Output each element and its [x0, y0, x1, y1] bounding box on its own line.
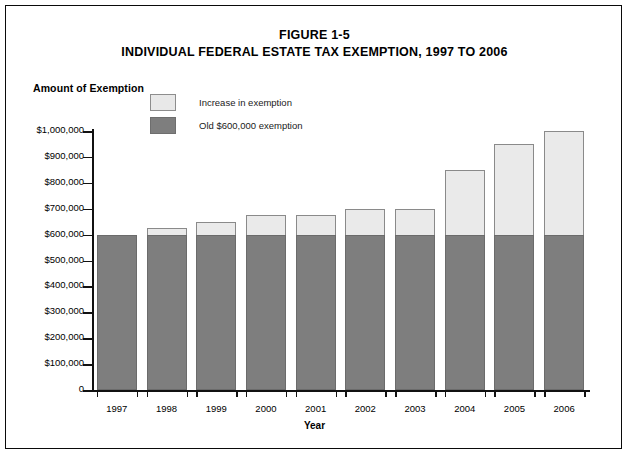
x-axis-tick-label-2006: 2006: [534, 403, 594, 414]
x-axis-tick: [97, 390, 99, 397]
y-axis-tick-label: $200,000: [0, 331, 84, 342]
bar-1997: [97, 235, 137, 390]
y-axis-tick: [83, 312, 92, 314]
x-axis-tick: [385, 390, 387, 397]
y-axis-tick-label: $700,000: [0, 202, 84, 213]
y-axis-tick-label: $300,000: [0, 305, 84, 316]
x-axis-tick: [196, 390, 198, 397]
x-axis-tick: [246, 390, 248, 397]
bar-segment-old-exemption: [395, 235, 435, 390]
bar-segment-old-exemption: [246, 235, 286, 390]
y-axis-tick-label: $600,000: [0, 228, 84, 239]
x-axis-tick: [534, 390, 536, 397]
y-axis-tick: [83, 390, 92, 392]
y-axis-tick-label: 0: [0, 383, 84, 394]
x-axis-tick: [485, 390, 487, 397]
plot-area: 1997199819992000200120022003200420052006: [92, 131, 589, 390]
bar-segment-increase: [544, 131, 584, 235]
y-axis-tick: [83, 131, 92, 133]
y-axis-tick-label: $400,000: [0, 279, 84, 290]
x-axis-tick: [584, 390, 586, 397]
bar-2002: [345, 209, 385, 390]
x-axis-tick: [147, 390, 149, 397]
bar-2006: [544, 131, 584, 390]
bar-segment-old-exemption: [147, 235, 187, 390]
x-axis-tick: [544, 390, 546, 397]
bar-segment-old-exemption: [196, 235, 236, 390]
bar-segment-increase: [494, 144, 534, 235]
bar-1999: [196, 222, 236, 390]
x-axis-tick: [445, 390, 447, 397]
x-axis-tick: [395, 390, 397, 397]
bar-segment-old-exemption: [445, 235, 485, 390]
y-axis-tick-label: $900,000: [0, 150, 84, 161]
y-axis-tick-label: $800,000: [0, 176, 84, 187]
bar-segment-old-exemption: [544, 235, 584, 390]
bar-segment-increase: [196, 222, 236, 235]
x-axis-tick: [435, 390, 437, 397]
bar-2000: [246, 215, 286, 390]
bar-2001: [296, 215, 336, 390]
y-axis-tick: [83, 338, 92, 340]
bar-segment-old-exemption: [494, 235, 534, 390]
bar-segment-increase: [445, 170, 485, 235]
bar-2003: [395, 209, 435, 390]
figure-title-block: FIGURE 1-5 INDIVIDUAL FEDERAL ESTATE TAX…: [0, 27, 629, 61]
y-axis-tick-label: $500,000: [0, 254, 84, 265]
x-axis-tick: [137, 390, 139, 397]
y-axis-tick-label: $100,000: [0, 357, 84, 368]
y-axis-tick: [83, 157, 92, 159]
x-axis-tick: [236, 390, 238, 397]
legend-label-old-exemption: Old $600,000 exemption: [199, 120, 303, 131]
y-axis-tick: [83, 261, 92, 263]
bar-2004: [445, 170, 485, 390]
y-axis-tick-label: $1,000,000: [0, 124, 84, 135]
x-axis-tick: [494, 390, 496, 397]
y-axis-tick: [83, 364, 92, 366]
figure-title: INDIVIDUAL FEDERAL ESTATE TAX EXEMPTION,…: [0, 43, 629, 61]
x-axis-tick: [336, 390, 338, 397]
x-axis-tick: [187, 390, 189, 397]
x-axis-title: Year: [0, 420, 629, 431]
legend-label-increase: Increase in exemption: [199, 97, 292, 108]
legend-swatch-increase-icon: [150, 94, 176, 111]
legend-item-increase: Increase in exemption: [150, 92, 303, 112]
figure-page: FIGURE 1-5 INDIVIDUAL FEDERAL ESTATE TAX…: [0, 0, 629, 456]
x-axis-line: [92, 390, 590, 392]
y-axis-tick: [83, 286, 92, 288]
x-axis-tick: [345, 390, 347, 397]
bar-segment-increase: [345, 209, 385, 235]
bar-segment-increase: [246, 215, 286, 234]
x-axis-tick: [286, 390, 288, 397]
bar-segment-old-exemption: [296, 235, 336, 390]
bar-segment-old-exemption: [97, 235, 137, 390]
bar-segment-old-exemption: [345, 235, 385, 390]
x-axis-tick: [296, 390, 298, 397]
bar-2005: [494, 144, 534, 390]
figure-number: FIGURE 1-5: [0, 27, 629, 43]
bar-segment-increase: [296, 215, 336, 234]
bar-segment-increase: [395, 209, 435, 235]
y-axis-tick: [83, 235, 92, 237]
y-axis-tick: [83, 183, 92, 185]
y-axis-title: Amount of Exemption: [33, 82, 144, 94]
bar-1998: [147, 228, 187, 390]
y-axis-tick: [83, 209, 92, 211]
